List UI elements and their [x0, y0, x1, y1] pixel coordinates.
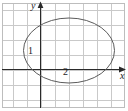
y-axis-label: y — [31, 1, 35, 11]
annotation-label-1: 1 — [28, 46, 33, 56]
annotation-label-2: 2 — [63, 67, 68, 77]
ellipse-figure: y x 1 2 — [0, 0, 128, 111]
grid-lines — [2, 3, 125, 108]
up-arrow-icon — [38, 2, 44, 9]
figure-canvas — [0, 0, 128, 111]
y-axis — [38, 2, 44, 109]
x-axis-label: x — [120, 71, 124, 81]
